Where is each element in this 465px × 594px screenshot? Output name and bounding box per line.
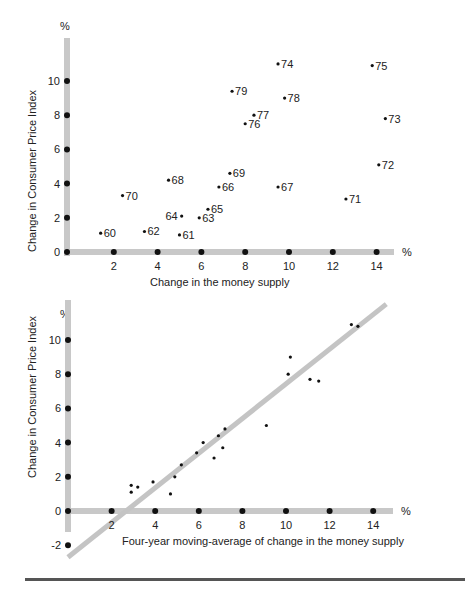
x-tick-dot: [111, 249, 117, 255]
x-tick-label: 14: [370, 260, 382, 272]
data-point: [344, 197, 347, 200]
x-tick-dot: [196, 508, 202, 514]
data-point: [265, 424, 268, 427]
top-data-points: 6061626364656667686970717273747576777879: [99, 58, 401, 241]
data-point: [384, 117, 387, 120]
x-tick-dot: [283, 508, 289, 514]
top-x-axis-title: Change in the money supply: [150, 276, 290, 288]
point-label: 62: [147, 225, 159, 237]
y-tick-dot: [65, 508, 71, 514]
y-tick-dot: [64, 146, 70, 152]
data-point: [195, 451, 198, 454]
y-tick-label: 0: [55, 505, 61, 517]
data-point: [143, 230, 146, 233]
data-point: [308, 378, 311, 381]
point-label: 68: [172, 174, 184, 186]
y-tick-label: 10: [49, 334, 61, 346]
y-tick-dot: [65, 474, 71, 480]
y-tick-dot: [65, 405, 71, 411]
x-tick-label: 6: [198, 260, 204, 272]
point-label: 69: [233, 167, 245, 179]
bottom-x-unit: %: [401, 505, 411, 517]
bottom-y-axis: [65, 300, 71, 532]
data-point: [350, 323, 353, 326]
x-tick-label: 12: [327, 260, 339, 272]
y-tick-dot: [65, 337, 71, 343]
data-point: [356, 325, 359, 328]
x-tick-label: 10: [280, 519, 292, 531]
point-label: 77: [257, 109, 269, 121]
data-point: [151, 480, 154, 483]
y-tick-dot: [65, 371, 71, 377]
point-label: 74: [281, 58, 293, 70]
y-tick-label: 8: [54, 109, 60, 121]
x-tick-dot: [374, 249, 380, 255]
y-tick-label: 6: [54, 143, 60, 155]
data-point: [167, 179, 170, 182]
top-x-unit: %: [402, 246, 412, 258]
x-tick-dot: [239, 508, 245, 514]
x-tick-dot: [155, 249, 161, 255]
data-point: [212, 456, 215, 459]
point-label: 65: [211, 203, 223, 215]
x-tick-label: 2: [109, 519, 115, 531]
point-label: 66: [222, 181, 234, 193]
data-point: [180, 214, 183, 217]
y-tick-label: 8: [55, 368, 61, 380]
x-tick-label: 2: [111, 260, 117, 272]
point-label: 73: [388, 113, 400, 125]
point-label: 78: [288, 92, 300, 104]
data-point: [202, 441, 205, 444]
bottom-data-points: [130, 323, 360, 495]
data-point: [317, 379, 320, 382]
data-point: [283, 97, 286, 100]
y-tick-label: 4: [54, 178, 60, 190]
trend-line: [68, 304, 386, 557]
top-y-axis-title: Change in Consumer Price Index: [26, 89, 38, 252]
x-tick-label: 10: [283, 260, 295, 272]
top-y-unit: %: [60, 20, 70, 32]
x-tick-dot: [327, 508, 333, 514]
data-point: [289, 356, 292, 359]
data-point: [377, 163, 380, 166]
y-tick-dot: [64, 249, 70, 255]
x-tick-label: 4: [152, 519, 158, 531]
data-point: [198, 216, 201, 219]
data-point: [173, 475, 176, 478]
data-point: [276, 185, 279, 188]
point-label: 75: [375, 60, 387, 72]
bottom-x-axis-title: Four-year moving-average of change in th…: [122, 535, 404, 547]
y-tick-dot: [64, 78, 70, 84]
x-tick-label: 8: [242, 260, 248, 272]
point-label: 71: [349, 193, 361, 205]
x-tick-dot: [152, 508, 158, 514]
data-point: [217, 434, 220, 437]
y-tick-dot: [64, 181, 70, 187]
data-point: [206, 208, 209, 211]
data-point: [180, 463, 183, 466]
figure: % % Change in Consumer Price Index Chang…: [0, 0, 465, 594]
x-tick-dot: [109, 508, 115, 514]
x-tick-label: 14: [367, 519, 379, 531]
point-label: 79: [235, 85, 247, 97]
data-point: [223, 427, 226, 430]
bottom-y-axis-title: Change in Consumer Price Index: [26, 315, 38, 478]
data-point: [130, 484, 133, 487]
point-label: 70: [126, 190, 138, 202]
data-point: [371, 64, 374, 67]
data-point: [252, 114, 255, 117]
data-point: [178, 233, 181, 236]
y-tick-label: 10: [48, 75, 60, 87]
top-scatter-chart: % % Change in Consumer Price Index Chang…: [26, 20, 412, 288]
y-tick-label: 0: [54, 246, 60, 258]
y-tick-label: 4: [55, 437, 61, 449]
x-tick-dot: [242, 249, 248, 255]
y-tick-dot: [65, 542, 71, 548]
data-point: [99, 232, 102, 235]
y-tick-dot: [64, 112, 70, 118]
data-point: [230, 90, 233, 93]
point-label: 72: [382, 159, 394, 171]
point-label: 67: [281, 181, 293, 193]
data-point: [221, 446, 224, 449]
x-tick-dot: [370, 508, 376, 514]
